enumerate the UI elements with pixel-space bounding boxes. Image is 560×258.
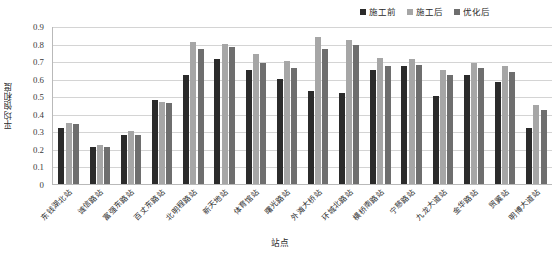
- bar-group: [303, 27, 334, 184]
- bar[interactable]: [471, 63, 477, 184]
- x-label-slot: 明博大道站: [521, 186, 552, 238]
- bar-group: [427, 27, 458, 184]
- bar[interactable]: [416, 65, 422, 184]
- bar[interactable]: [315, 37, 321, 184]
- bar[interactable]: [502, 66, 508, 184]
- bar[interactable]: [183, 75, 189, 184]
- y-tick-label: 0.5: [33, 93, 44, 102]
- bar[interactable]: [409, 59, 415, 184]
- bar[interactable]: [464, 75, 470, 184]
- bar[interactable]: [214, 59, 220, 184]
- bar[interactable]: [541, 110, 547, 184]
- x-tick-label: 东钱湖北站: [39, 188, 73, 222]
- bars-layer: [53, 27, 552, 184]
- bar[interactable]: [385, 66, 391, 184]
- bar[interactable]: [478, 68, 484, 184]
- y-tick-label: 0.4: [33, 110, 44, 119]
- bar[interactable]: [291, 68, 297, 184]
- y-tick-label: 0.9: [33, 23, 44, 32]
- legend-swatch-icon: [360, 9, 366, 15]
- y-tick-label: 0.6: [33, 75, 44, 84]
- x-axis-title: 站点: [0, 236, 560, 248]
- bar[interactable]: [260, 63, 266, 184]
- bar[interactable]: [509, 72, 515, 184]
- bar[interactable]: [198, 49, 204, 184]
- bar-group: [365, 27, 396, 184]
- legend-label: 施工前: [369, 8, 396, 17]
- y-tick-label: 0.8: [33, 40, 44, 49]
- bar[interactable]: [73, 124, 79, 184]
- bar[interactable]: [66, 123, 72, 184]
- y-tick-label: 0.2: [33, 145, 44, 154]
- bar[interactable]: [152, 100, 158, 184]
- bar[interactable]: [322, 49, 328, 184]
- bar-group: [521, 27, 552, 184]
- bar[interactable]: [135, 135, 141, 184]
- y-axis-ticks: 0.90.80.70.60.50.40.30.20.10: [0, 27, 48, 185]
- bar[interactable]: [222, 44, 228, 184]
- y-tick-label: 0: [40, 181, 44, 190]
- legend-entry[interactable]: 施工前: [360, 8, 396, 17]
- bar-group: [84, 27, 115, 184]
- bar-group: [147, 27, 178, 184]
- bar[interactable]: [121, 135, 127, 184]
- bar[interactable]: [229, 47, 235, 184]
- legend-entry[interactable]: 优化后: [454, 8, 490, 17]
- plot-area: [52, 27, 552, 185]
- bar[interactable]: [58, 128, 64, 184]
- bar[interactable]: [526, 128, 532, 184]
- bar[interactable]: [346, 40, 352, 184]
- bar-group: [53, 27, 84, 184]
- bar[interactable]: [353, 45, 359, 184]
- bar[interactable]: [339, 93, 345, 184]
- legend-swatch-icon: [407, 9, 413, 15]
- x-axis-labels: 东钱湖北站诚信路站富强东路站百丈东路站北明程路站新天地站体育馆站曙光路站外滩大桥…: [52, 186, 552, 238]
- legend-label: 施工后: [416, 8, 443, 17]
- bar[interactable]: [284, 61, 290, 184]
- bar[interactable]: [533, 105, 539, 184]
- bar[interactable]: [246, 70, 252, 184]
- bar-group: [490, 27, 521, 184]
- legend-label: 优化后: [463, 8, 490, 17]
- bar[interactable]: [377, 58, 383, 184]
- legend-swatch-icon: [454, 9, 460, 15]
- bar-chart: 施工前施工后优化后 平均饱和度 0.90.80.70.60.50.40.30.2…: [0, 0, 560, 258]
- x-label-slot: 金华路站: [458, 186, 489, 238]
- bar[interactable]: [495, 82, 501, 184]
- bar[interactable]: [440, 70, 446, 184]
- bar-group: [178, 27, 209, 184]
- bar-group: [334, 27, 365, 184]
- bar-group: [115, 27, 146, 184]
- bar[interactable]: [104, 147, 110, 184]
- y-tick-label: 0.7: [33, 58, 44, 67]
- bar[interactable]: [90, 147, 96, 184]
- bar[interactable]: [308, 91, 314, 184]
- bar[interactable]: [447, 75, 453, 184]
- bar[interactable]: [159, 102, 165, 185]
- x-tick-label: 贸翼站: [488, 188, 510, 210]
- bar[interactable]: [370, 70, 376, 184]
- y-tick-label: 0.3: [33, 128, 44, 137]
- chart-legend: 施工前施工后优化后: [0, 4, 560, 20]
- bar-group: [209, 27, 240, 184]
- bar-group: [396, 27, 427, 184]
- legend-entry[interactable]: 施工后: [407, 8, 443, 17]
- bar[interactable]: [253, 54, 259, 184]
- bar[interactable]: [277, 79, 283, 184]
- bar[interactable]: [433, 96, 439, 184]
- bar-group: [240, 27, 271, 184]
- bar[interactable]: [166, 103, 172, 184]
- bar[interactable]: [190, 42, 196, 184]
- bar-group: [271, 27, 302, 184]
- bar[interactable]: [401, 66, 407, 184]
- bar-group: [458, 27, 489, 184]
- bar[interactable]: [128, 131, 134, 184]
- bar[interactable]: [97, 145, 103, 184]
- y-tick-label: 0.1: [33, 163, 44, 172]
